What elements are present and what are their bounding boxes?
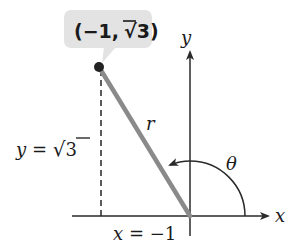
callout-radical: √ [124, 20, 137, 42]
callout-x-value: −1, [83, 20, 119, 42]
y-axis-label: y [180, 27, 192, 48]
callout-close-paren: ) [150, 20, 159, 42]
x-equation: x = −1 [113, 223, 176, 244]
point-marker [94, 62, 104, 72]
callout-open-paren: ( [74, 20, 83, 42]
y-equation-radical: √ [53, 137, 66, 161]
radius-line [99, 67, 190, 216]
radius-label: r [146, 113, 156, 134]
callout-pointer [102, 47, 116, 63]
x-equation-eq: = −1 [123, 223, 176, 244]
angle-label: θ [226, 153, 237, 174]
svg-text:(−1,√3): (−1,√3) [74, 20, 159, 42]
svg-text:y = √3: y = √3 [15, 137, 77, 161]
point-callout: (−1,√3) [64, 10, 159, 63]
y-equation-eq: = [26, 139, 53, 160]
x-equation-var: x [113, 223, 123, 244]
y-equation-value: 3 [65, 139, 76, 160]
x-axis-label: x [275, 205, 285, 226]
polar-coordinate-diagram: (−1,√3) y x r θ y = √3 x = −1 [0, 0, 293, 250]
callout-y-value: 3 [137, 20, 150, 42]
y-equation: y = √3 [15, 137, 90, 161]
